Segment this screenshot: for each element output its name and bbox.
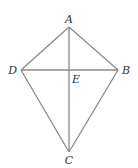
label-d: D: [7, 64, 17, 77]
kite-diagram: A B C D E: [0, 0, 138, 168]
label-e: E: [71, 73, 80, 86]
segment-ab: [69, 27, 118, 70]
label-a: A: [64, 13, 73, 26]
segment-cd: [21, 70, 69, 152]
label-c: C: [65, 154, 74, 167]
label-b: B: [121, 64, 130, 77]
segment-da: [21, 27, 69, 70]
